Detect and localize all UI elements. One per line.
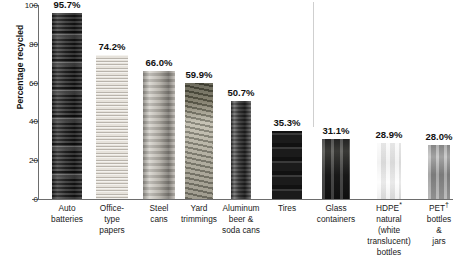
category-label-line: bottles & bbox=[427, 214, 451, 236]
y-tick-label: 100 bbox=[8, 1, 38, 10]
bar-office-type-papers bbox=[96, 55, 128, 199]
category-label-line: cans bbox=[150, 214, 169, 225]
recycling-rate-bar-chart: Percentage recycled 020406080100 95.7%74… bbox=[0, 0, 461, 269]
value-label-6: 31.1% bbox=[323, 125, 350, 136]
category-label-8: PET†bottles &jars bbox=[427, 203, 451, 247]
bar-pet-bottles bbox=[428, 145, 450, 199]
category-label-line: Steel bbox=[150, 203, 169, 214]
bar-aluminum-cans bbox=[231, 101, 251, 199]
y-tick-label: 40 bbox=[8, 117, 38, 126]
bar-yard-trimmings bbox=[185, 83, 213, 199]
category-label-4: Aluminumbeer &soda cans bbox=[222, 203, 260, 236]
category-label-line: Auto bbox=[51, 203, 83, 214]
y-axis-line bbox=[38, 5, 39, 199]
value-label-4: 50.7% bbox=[228, 87, 255, 98]
y-tick-label: 20 bbox=[8, 156, 38, 165]
category-label-line: type bbox=[99, 214, 124, 225]
category-label-6: Glasscontainers bbox=[317, 203, 355, 225]
category-label-line: HDPE* bbox=[367, 203, 410, 214]
category-label-line: containers bbox=[317, 214, 355, 225]
value-label-5: 35.3% bbox=[274, 117, 301, 128]
category-label-0: Autobatteries bbox=[51, 203, 83, 225]
category-label-line: Office- bbox=[99, 203, 124, 214]
category-label-line: jars bbox=[427, 236, 451, 247]
value-label-0: 95.7% bbox=[54, 0, 81, 10]
bar-tires bbox=[272, 131, 302, 199]
category-label-line: Tires bbox=[278, 203, 296, 214]
value-label-2: 66.0% bbox=[146, 57, 173, 68]
category-label-2: Steelcans bbox=[150, 203, 169, 225]
bar-auto-batteries bbox=[52, 13, 82, 199]
x-axis-line bbox=[38, 199, 453, 200]
category-label-line: trimmings bbox=[181, 214, 217, 225]
y-tick-label: 80 bbox=[8, 39, 38, 48]
category-label-line: papers bbox=[99, 225, 124, 236]
category-label-line: bottles bbox=[367, 247, 410, 258]
bar-steel-cans bbox=[143, 71, 175, 199]
category-label-line: beer & bbox=[222, 214, 260, 225]
category-label-7: HDPE*natural(whitetranslucent)bottles bbox=[367, 203, 410, 258]
bar-hdpe-bottles bbox=[377, 143, 401, 199]
category-label-line: (white bbox=[367, 225, 410, 236]
y-tick-label: 0 bbox=[8, 195, 38, 204]
value-label-1: 74.2% bbox=[99, 41, 126, 52]
category-label-line: Glass bbox=[317, 203, 355, 214]
category-label-line: PET† bbox=[427, 203, 451, 214]
category-label-5: Tires bbox=[278, 203, 296, 214]
category-label-line: Aluminum bbox=[222, 203, 260, 214]
category-label-1: Office-typepapers bbox=[99, 203, 124, 236]
category-label-line: translucent) bbox=[367, 236, 410, 247]
y-tick-label: 60 bbox=[8, 78, 38, 87]
category-label-line: soda cans bbox=[222, 225, 260, 236]
group-divider bbox=[313, 2, 314, 127]
value-label-3: 59.9% bbox=[186, 69, 213, 80]
value-label-7: 28.9% bbox=[376, 129, 403, 140]
value-label-8: 28.0% bbox=[426, 131, 453, 142]
category-label-line: natural bbox=[367, 214, 410, 225]
category-label-line: Yard bbox=[181, 203, 217, 214]
category-label-line: batteries bbox=[51, 214, 83, 225]
bar-glass-containers bbox=[322, 139, 350, 199]
category-label-3: Yardtrimmings bbox=[181, 203, 217, 225]
